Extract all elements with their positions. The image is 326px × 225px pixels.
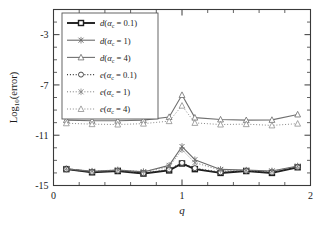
- legend-label: e(αc = 0.1): [100, 70, 137, 81]
- y-tick-label: -7: [40, 80, 48, 91]
- y-axis-label: Log10(error): [8, 71, 21, 123]
- x-tick-label: 1: [180, 190, 185, 201]
- legend-label: e(αc = 1): [100, 87, 130, 98]
- svg-text:Log10(error): Log10(error): [8, 71, 21, 123]
- figure-container: -3-7-11-15012qLog10(error)d(αc = 0.1)d(α…: [0, 0, 326, 225]
- legend-label: e(αc = 4): [100, 104, 130, 115]
- series-e-alpha-0.1: [64, 160, 300, 175]
- y-tick-label: -15: [35, 180, 48, 191]
- x-tick-label: 2: [308, 190, 313, 201]
- legend[interactable]: d(αc = 0.1)d(αc = 1)d(αc = 4)e(αc = 0.1)…: [62, 13, 158, 119]
- legend-label: d(αc = 4): [100, 53, 131, 64]
- x-axis-label: q: [179, 204, 185, 216]
- legend-label: d(αc = 1): [100, 36, 131, 47]
- y-tick-label: -11: [36, 130, 49, 141]
- y-tick-label: -3: [40, 29, 48, 40]
- x-tick-label: 0: [51, 190, 56, 201]
- chart-svg: -3-7-11-15012qLog10(error)d(αc = 0.1)d(α…: [0, 0, 326, 225]
- legend-label: d(αc = 0.1): [100, 18, 137, 29]
